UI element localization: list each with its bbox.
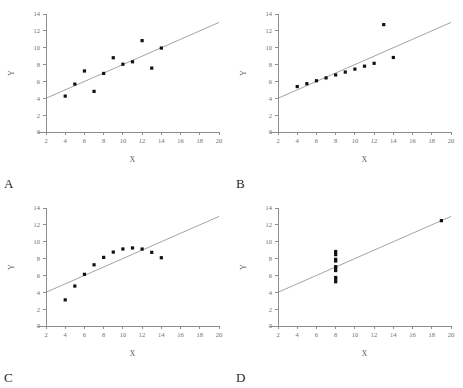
data-point xyxy=(315,79,318,82)
x-tick-label: 16 xyxy=(177,331,184,338)
data-point xyxy=(121,247,124,250)
y-tick-label: 0 xyxy=(269,128,272,135)
y-tick-label: 8 xyxy=(37,255,40,262)
x-tick-label: 14 xyxy=(158,137,165,144)
regression-line xyxy=(46,216,219,292)
data-point xyxy=(73,284,76,287)
data-point xyxy=(334,253,337,256)
x-tick-label: 2 xyxy=(44,137,47,144)
scatter-panel-a: 024681012142468101214161820XYA xyxy=(0,0,231,194)
y-tick-label: 10 xyxy=(34,44,41,51)
y-tick-label: 14 xyxy=(34,10,41,17)
y-tick-label: 10 xyxy=(266,44,273,51)
y-tick-label: 4 xyxy=(269,289,273,296)
data-point xyxy=(83,273,86,276)
x-tick-label: 4 xyxy=(296,137,300,144)
x-tick-label: 18 xyxy=(429,137,436,144)
y-tick-label: 4 xyxy=(269,95,273,102)
data-point xyxy=(392,56,395,59)
x-tick-label: 10 xyxy=(120,137,127,144)
x-tick-label: 16 xyxy=(409,137,416,144)
y-tick-label: 2 xyxy=(269,112,272,119)
x-axis-title: X xyxy=(130,155,136,164)
y-tick-label: 14 xyxy=(34,204,41,211)
y-tick-label: 12 xyxy=(266,221,273,228)
data-point xyxy=(353,68,356,71)
data-point xyxy=(305,82,308,85)
y-tick-label: 12 xyxy=(266,27,273,34)
data-point xyxy=(92,90,95,93)
panel-label-c: C xyxy=(4,370,13,386)
y-tick-label: 14 xyxy=(266,204,273,211)
y-tick-label: 6 xyxy=(37,78,41,85)
data-point xyxy=(160,46,163,49)
x-tick-label: 4 xyxy=(64,137,68,144)
x-tick-label: 12 xyxy=(371,137,378,144)
panel-label-d: D xyxy=(236,370,246,386)
x-tick-label: 4 xyxy=(64,331,68,338)
data-point xyxy=(83,69,86,72)
y-tick-label: 6 xyxy=(37,272,41,279)
data-point xyxy=(334,250,337,253)
data-point xyxy=(102,72,105,75)
x-tick-label: 12 xyxy=(139,331,146,338)
data-point xyxy=(112,250,115,253)
y-tick-label: 6 xyxy=(269,78,273,85)
x-tick-label: 18 xyxy=(197,137,204,144)
data-point xyxy=(324,76,327,79)
data-point xyxy=(334,258,337,261)
y-tick-label: 12 xyxy=(34,27,41,34)
x-tick-label: 18 xyxy=(197,331,204,338)
x-tick-label: 8 xyxy=(102,137,105,144)
scatter-panel-c: 024681012142468101214161820XYC xyxy=(0,194,231,388)
scatter-panel-b: 024681012142468101214161820XYB xyxy=(232,0,463,194)
x-tick-label: 6 xyxy=(83,137,87,144)
x-tick-label: 20 xyxy=(216,137,223,144)
scatter-plot-d: 024681012142468101214161820XY xyxy=(232,194,463,362)
data-point xyxy=(440,219,443,222)
y-tick-label: 6 xyxy=(269,272,273,279)
data-point xyxy=(296,85,299,88)
data-point xyxy=(64,298,67,301)
x-tick-label: 14 xyxy=(158,331,165,338)
y-tick-label: 4 xyxy=(37,289,41,296)
data-point xyxy=(363,65,366,68)
x-axis-title: X xyxy=(362,349,368,358)
y-axis-title: Y xyxy=(7,264,16,270)
data-point xyxy=(112,56,115,59)
data-point xyxy=(344,70,347,73)
x-tick-label: 16 xyxy=(177,137,184,144)
y-tick-label: 0 xyxy=(37,128,40,135)
scatter-plot-c: 024681012142468101214161820XY xyxy=(0,194,231,362)
x-tick-label: 4 xyxy=(296,331,300,338)
anscombe-quartet-figure: 024681012142468101214161820XYA0246810121… xyxy=(0,0,463,388)
y-tick-label: 12 xyxy=(34,221,41,228)
y-tick-label: 2 xyxy=(269,306,272,313)
x-tick-label: 10 xyxy=(352,137,359,144)
data-point xyxy=(64,94,67,97)
data-point xyxy=(131,246,134,249)
panel-label-a: A xyxy=(4,176,14,192)
panel-label-b: B xyxy=(236,176,245,192)
data-point xyxy=(160,256,163,259)
regression-line xyxy=(278,22,451,98)
x-axis-title: X xyxy=(362,155,368,164)
x-tick-label: 14 xyxy=(390,331,397,338)
x-tick-label: 16 xyxy=(409,331,416,338)
x-tick-label: 20 xyxy=(448,137,455,144)
x-tick-label: 8 xyxy=(334,331,337,338)
data-point xyxy=(150,67,153,70)
x-tick-label: 6 xyxy=(83,331,87,338)
x-tick-label: 12 xyxy=(371,331,378,338)
x-tick-label: 14 xyxy=(390,137,397,144)
y-axis-title: Y xyxy=(239,70,248,76)
data-point xyxy=(334,278,337,281)
x-tick-label: 10 xyxy=(352,331,359,338)
y-axis-title: Y xyxy=(7,70,16,76)
data-point xyxy=(141,247,144,250)
y-axis-title: Y xyxy=(239,264,248,270)
x-tick-label: 2 xyxy=(276,137,279,144)
data-point xyxy=(131,60,134,63)
x-tick-label: 10 xyxy=(120,331,127,338)
regression-line xyxy=(278,216,451,292)
